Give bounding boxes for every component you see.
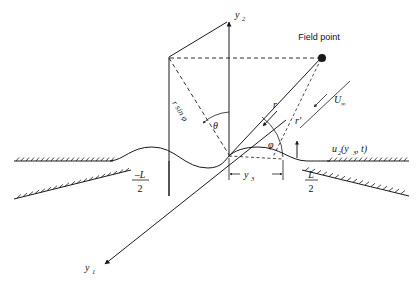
- label-theta: θ: [213, 120, 218, 131]
- label-phi: φ: [268, 139, 274, 150]
- label-u-infinity: U ∞: [334, 94, 346, 107]
- theta-text: θ: [213, 120, 218, 131]
- u2-text: u: [332, 143, 337, 154]
- u-infinity-subscript: ∞: [341, 100, 346, 107]
- field-point-text: Field point: [298, 32, 340, 42]
- label-neg-half-L: –L 2: [134, 169, 146, 194]
- label-field-point: Field point: [298, 32, 340, 42]
- half-L-denominator: 2: [309, 183, 314, 194]
- y3-text: y: [243, 169, 249, 180]
- neg-half-L-numerator: –L: [134, 169, 146, 180]
- u2-args-tail: , t): [356, 143, 368, 155]
- label-axis-y1: y 1: [84, 262, 95, 275]
- axis-y1-text: y: [84, 262, 90, 273]
- r-text: r: [273, 99, 277, 110]
- phi-text: φ: [268, 139, 274, 150]
- neg-half-L-denominator: 2: [138, 183, 143, 194]
- r-sin-phi-text: r sin φ: [170, 99, 190, 123]
- half-L-numerator: L: [307, 169, 314, 180]
- axis-y1-subscript: 1: [92, 268, 95, 275]
- r-prime-text: r': [295, 115, 302, 126]
- label-axis-y2: y 2: [234, 9, 246, 22]
- label-r-sin-phi: r sin φ: [170, 99, 190, 123]
- y3-subscript: 3: [250, 175, 255, 182]
- axis-y2-subscript: 2: [242, 15, 246, 22]
- axis-y2-text: y: [234, 9, 240, 20]
- label-surface-displacement: u 2 (y 3 , t): [332, 143, 368, 156]
- label-y3: y 3: [243, 169, 255, 182]
- diagram-labels: y 2 y 1 Field point r r' r sin φ θ φ U ∞…: [0, 0, 417, 285]
- label-r-prime: r': [295, 115, 302, 126]
- label-r: r: [273, 99, 277, 110]
- u2-args-open: (y: [341, 143, 349, 155]
- figure-root: y 2 y 1 Field point r r' r sin φ θ φ U ∞…: [0, 0, 417, 285]
- label-half-L: L 2: [307, 169, 314, 194]
